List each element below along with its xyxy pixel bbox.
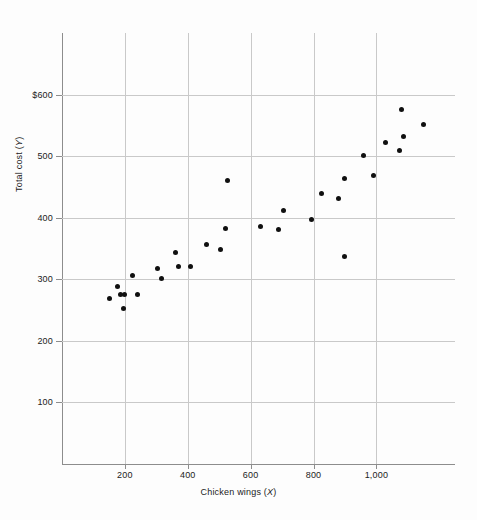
data-point bbox=[336, 196, 341, 201]
data-point bbox=[276, 227, 281, 232]
x-axis-tick-label: 200 bbox=[117, 470, 133, 480]
gridline-horizontal bbox=[62, 341, 455, 342]
x-axis-tick-label: 600 bbox=[243, 470, 259, 480]
data-point bbox=[223, 226, 228, 231]
gridline-horizontal bbox=[62, 218, 455, 219]
x-axis-title-text: Chicken wings bbox=[201, 487, 262, 497]
data-point bbox=[204, 242, 209, 247]
data-point bbox=[383, 140, 388, 145]
x-axis-tick bbox=[188, 464, 189, 469]
y-axis-tick bbox=[56, 341, 62, 342]
y-axis-tick-label: $600 bbox=[32, 90, 53, 100]
data-point bbox=[130, 273, 135, 278]
x-axis-tick bbox=[251, 464, 252, 469]
x-axis-tick-label: 1,000 bbox=[365, 470, 389, 480]
data-point bbox=[225, 178, 230, 183]
data-point bbox=[218, 247, 223, 252]
y-axis-tick bbox=[56, 279, 62, 280]
data-point bbox=[319, 191, 324, 196]
data-point bbox=[155, 266, 160, 271]
data-point bbox=[107, 296, 112, 301]
y-axis-tick bbox=[56, 218, 62, 219]
data-point bbox=[173, 250, 178, 255]
data-point bbox=[159, 276, 164, 281]
x-axis-tick bbox=[376, 464, 377, 469]
data-point bbox=[176, 264, 181, 269]
y-axis-title: Total cost (Y) bbox=[14, 137, 24, 192]
gridline-horizontal bbox=[62, 279, 455, 280]
gridline-horizontal bbox=[62, 402, 455, 403]
data-point bbox=[188, 264, 193, 269]
data-point bbox=[135, 292, 140, 297]
x-axis-tick bbox=[314, 464, 315, 469]
x-axis-line bbox=[62, 464, 455, 465]
data-point bbox=[371, 173, 376, 178]
x-axis-title-variable: X bbox=[267, 487, 273, 497]
y-axis-tick-label: 100 bbox=[37, 397, 53, 407]
data-point bbox=[258, 224, 263, 229]
y-axis-tick-label: 200 bbox=[37, 336, 53, 346]
scatter-chart-figure: 100200300400500$600 2004006008001,000 To… bbox=[0, 0, 477, 520]
gridline-vertical bbox=[314, 33, 315, 464]
data-point bbox=[115, 284, 120, 289]
data-point bbox=[397, 148, 402, 153]
y-axis-tick bbox=[56, 95, 62, 96]
gridline-horizontal bbox=[62, 95, 455, 96]
data-point bbox=[361, 153, 366, 158]
gridline-vertical bbox=[251, 33, 252, 464]
y-axis-tick bbox=[56, 156, 62, 157]
gridline-vertical bbox=[188, 33, 189, 464]
data-point bbox=[401, 134, 406, 139]
data-point bbox=[342, 176, 347, 181]
x-axis-title: Chicken wings (X) bbox=[0, 487, 477, 497]
gridline-vertical bbox=[125, 33, 126, 464]
x-axis-tick-label: 800 bbox=[306, 470, 322, 480]
gridline-vertical bbox=[376, 33, 377, 464]
y-axis-line bbox=[62, 33, 63, 465]
y-axis-tick-label: 400 bbox=[37, 213, 53, 223]
data-point bbox=[281, 208, 286, 213]
data-point bbox=[421, 122, 426, 127]
y-axis-title-variable: Y bbox=[14, 140, 24, 146]
y-axis-tick-label: 300 bbox=[37, 274, 53, 284]
plot-area: 100200300400500$600 2004006008001,000 bbox=[62, 33, 455, 465]
data-point bbox=[342, 254, 347, 259]
data-point bbox=[399, 107, 404, 112]
y-axis-title-text: Total cost bbox=[14, 152, 24, 192]
x-axis-tick-label: 400 bbox=[180, 470, 196, 480]
y-axis-tick bbox=[56, 402, 62, 403]
gridline-horizontal bbox=[62, 156, 455, 157]
y-axis-tick-label: 500 bbox=[37, 151, 53, 161]
x-axis-tick bbox=[125, 464, 126, 469]
data-point bbox=[122, 292, 127, 297]
